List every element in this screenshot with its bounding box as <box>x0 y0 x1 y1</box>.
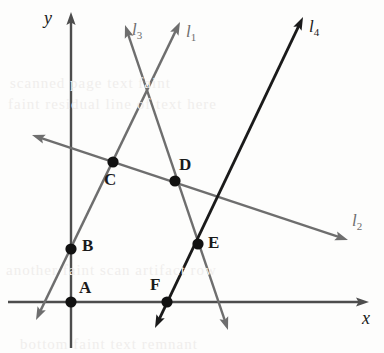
point-label-C: C <box>104 170 116 190</box>
point-F[interactable] <box>161 296 172 307</box>
line-label-l1: l1 <box>186 22 196 43</box>
point-C[interactable] <box>107 156 118 167</box>
axis-label-y: y <box>44 8 52 29</box>
line-label-l2: l2 <box>352 211 362 232</box>
line-label-l3: l3 <box>132 20 142 41</box>
line-label-l2-subscript: 2 <box>357 220 363 232</box>
point-label-F: F <box>150 275 160 295</box>
axis-label-x: x <box>362 308 370 329</box>
line-label-l1-subscript: 1 <box>191 31 197 43</box>
point-B[interactable] <box>65 243 76 254</box>
geometry-figure: scanned page text faintfaint residual li… <box>0 0 384 353</box>
line-l2[interactable] <box>41 138 340 237</box>
point-D[interactable] <box>169 175 180 186</box>
point-A[interactable] <box>65 296 76 307</box>
diagram-canvas <box>0 0 384 353</box>
point-label-E: E <box>208 233 219 253</box>
line-label-l4-subscript: 4 <box>314 26 320 38</box>
point-label-B: B <box>82 236 93 256</box>
point-label-D: D <box>179 155 191 175</box>
point-label-A: A <box>79 278 91 298</box>
point-E[interactable] <box>192 238 203 249</box>
line-label-l3-subscript: 3 <box>137 29 143 41</box>
line-label-l4: l4 <box>309 17 319 38</box>
